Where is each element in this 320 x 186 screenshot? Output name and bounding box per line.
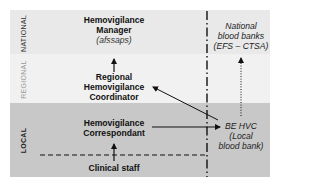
node-clinical-staff: Clinical staff: [64, 163, 164, 173]
node-hemovigilance-correspondant: Hemovigilance Correspondant: [64, 118, 164, 138]
node-be-hvc: BE HVC (Local blood bank): [208, 121, 274, 151]
correspondant-title-line-2: Correspondant: [64, 128, 164, 138]
correspondant-title-line-1: Hemovigilance: [64, 118, 164, 128]
clinical-staff-title: Clinical staff: [64, 163, 164, 173]
node-hemovigilance-manager: Hemovigilance Manager (afssaps): [64, 15, 164, 45]
manager-title-line-2: Manager: [64, 25, 164, 35]
coordinator-title-line-3: Coordinator: [64, 92, 164, 102]
behvc-line-2: (Local: [208, 131, 274, 141]
national-banks-line-3: (EFS – CTSA): [208, 41, 274, 51]
behvc-line-3: blood bank): [208, 141, 274, 151]
coordinator-title-line-2: Hemovigilance: [64, 82, 164, 92]
node-regional-coordinator: Regional Hemovigilance Coordinator: [64, 72, 164, 102]
manager-title-line-1: Hemovigilance: [64, 15, 164, 25]
behvc-line-1: BE HVC: [208, 121, 274, 131]
national-banks-line-2: blood banks: [208, 31, 274, 41]
node-national-blood-banks: National blood banks (EFS – CTSA): [208, 21, 274, 51]
manager-subtitle: (afssaps): [64, 35, 164, 45]
coordinator-title-line-1: Regional: [64, 72, 164, 82]
national-banks-line-1: National: [208, 21, 274, 31]
